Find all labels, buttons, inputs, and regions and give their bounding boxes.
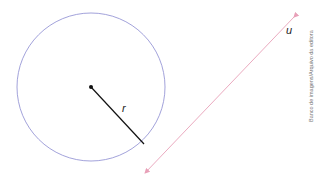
line-label: u bbox=[286, 24, 292, 36]
image-credit: Banco de imagens/Arquivo da editora bbox=[308, 29, 314, 122]
diagram-canvas: r u Banco de imagens/Arquivo da editora bbox=[0, 0, 319, 177]
radius-label: r bbox=[122, 102, 127, 114]
line-u bbox=[145, 17, 294, 173]
center-point bbox=[89, 85, 93, 89]
radius-segment bbox=[91, 87, 144, 144]
